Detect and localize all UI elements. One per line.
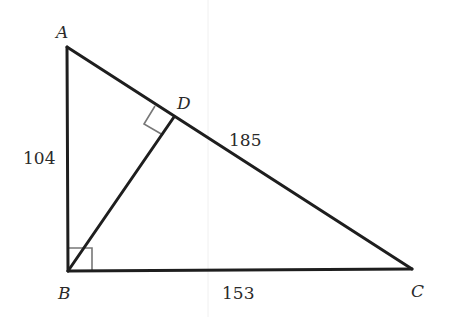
side-bc xyxy=(68,269,412,271)
side-label-dc: 185 xyxy=(229,130,261,150)
right-angle-marker-d xyxy=(144,106,163,135)
vertex-label-c: C xyxy=(411,281,424,301)
side-label-bc: 153 xyxy=(222,283,254,303)
altitude-bd xyxy=(68,117,174,271)
triangle-diagram: A B C D 104 153 185 xyxy=(0,0,451,317)
vertex-label-d: D xyxy=(176,93,191,113)
vertex-label-a: A xyxy=(54,22,68,42)
side-label-ab: 104 xyxy=(23,148,55,168)
side-ac xyxy=(67,47,412,269)
vertex-label-b: B xyxy=(57,283,71,303)
side-ab xyxy=(67,47,68,271)
